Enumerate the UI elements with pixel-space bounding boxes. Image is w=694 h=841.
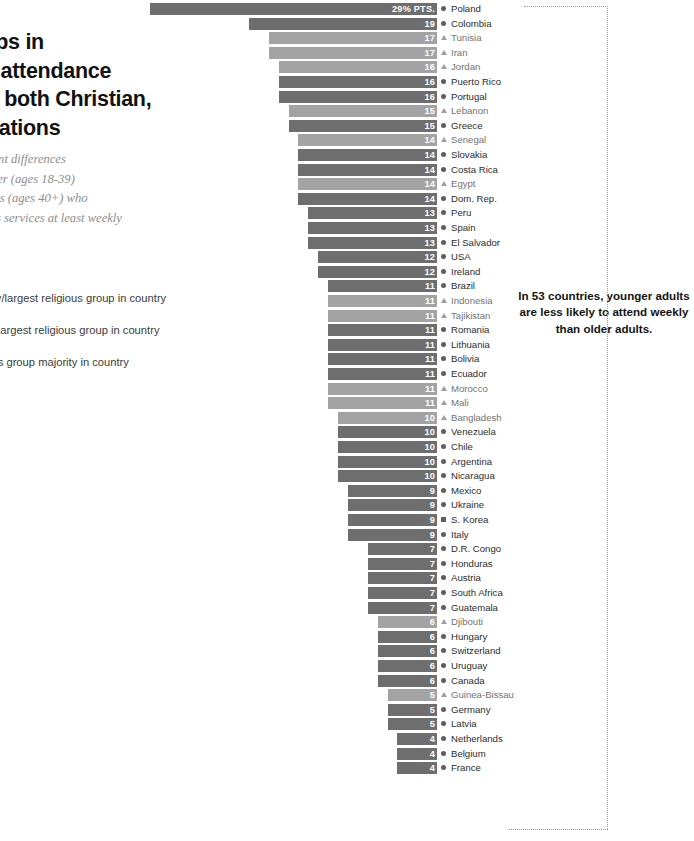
- bar-value-label: 4: [430, 748, 435, 760]
- country-label: D.R. Congo: [451, 543, 501, 555]
- country-label: Brazil: [451, 280, 475, 292]
- country-label: Ecuador: [451, 368, 487, 380]
- country-label: Mali: [451, 397, 469, 409]
- circle-marker-icon: [441, 196, 446, 201]
- circle-marker-icon: [441, 736, 446, 741]
- chart-annotation: In 53 countries, younger adults are less…: [509, 288, 694, 337]
- chart-row: 7D.R. Congo: [0, 543, 694, 555]
- triangle-marker-icon: [441, 64, 447, 69]
- country-label: Slovakia: [451, 149, 487, 161]
- bar: [338, 456, 437, 468]
- country-label: Nicaragua: [451, 470, 495, 482]
- chart-row: 14Egypt: [0, 178, 694, 190]
- bar-value-label: 9: [430, 514, 435, 526]
- country-label: Belgium: [451, 748, 486, 760]
- circle-marker-icon: [441, 751, 446, 756]
- bracket-bottom-line: [509, 829, 608, 830]
- bar: [328, 353, 437, 365]
- country-label: Chile: [451, 441, 473, 453]
- chart-row: 16Jordan: [0, 61, 694, 73]
- country-label: Guatemala: [451, 602, 498, 614]
- bar: [348, 485, 437, 497]
- country-label: S. Korea: [451, 514, 488, 526]
- bar: [249, 18, 437, 30]
- country-label: Greece: [451, 120, 482, 132]
- country-label: Italy: [451, 529, 469, 541]
- bar-value-label: 19: [424, 18, 435, 30]
- circle-marker-icon: [441, 283, 446, 288]
- chart-row: 11Ecuador: [0, 368, 694, 380]
- chart-row: 7Honduras: [0, 558, 694, 570]
- chart-row: 16Puerto Rico: [0, 76, 694, 88]
- triangle-marker-icon: [441, 415, 447, 420]
- circle-marker-icon: [441, 240, 446, 245]
- bar: [338, 426, 437, 438]
- bar-value-label: 7: [430, 543, 435, 555]
- chart-row: 7Austria: [0, 572, 694, 584]
- bar-value-label: 6: [430, 631, 435, 643]
- bar-value-label: 6: [430, 645, 435, 657]
- bar: [298, 193, 437, 205]
- circle-marker-icon: [441, 473, 446, 478]
- circle-marker-icon: [441, 79, 446, 84]
- bar-value-label: 14: [424, 134, 435, 146]
- chart-row: 11Morocco: [0, 383, 694, 395]
- bar-value-label: 4: [430, 762, 435, 774]
- chart-row: 10Nicaragua: [0, 470, 694, 482]
- bracket-right-line: [607, 6, 608, 829]
- chart-row: 10Chile: [0, 441, 694, 453]
- chart-row: 14Senegal: [0, 134, 694, 146]
- chart-row: 13Spain: [0, 222, 694, 234]
- bar-value-label: 6: [430, 660, 435, 672]
- country-label: South Africa: [451, 587, 503, 599]
- chart-row: 14Slovakia: [0, 149, 694, 161]
- chart-row: 12Ireland: [0, 266, 694, 278]
- country-label: Lebanon: [451, 105, 488, 117]
- country-label: Dom. Rep.: [451, 193, 497, 205]
- country-label: Guinea-Bissau: [451, 689, 514, 701]
- bar-value-label: 11: [425, 383, 435, 395]
- circle-marker-icon: [441, 152, 446, 157]
- bar-value-label: 7: [430, 572, 435, 584]
- circle-marker-icon: [441, 721, 446, 726]
- bar: [279, 76, 437, 88]
- bar: [368, 572, 437, 584]
- chart-row: 16Portugal: [0, 91, 694, 103]
- bar-value-label: 9: [430, 529, 435, 541]
- bar-value-label: 14: [424, 164, 435, 176]
- bar: [368, 543, 437, 555]
- chart-row: 11Lithuania: [0, 339, 694, 351]
- triangle-marker-icon: [441, 298, 447, 303]
- chart-row: 6Djibouti: [0, 616, 694, 628]
- bar-value-label: 11: [425, 324, 435, 336]
- triangle-marker-icon: [441, 35, 447, 40]
- bar-value-label: 15: [424, 120, 435, 132]
- bar-value-label: 16: [424, 76, 435, 88]
- bar: [289, 105, 437, 117]
- chart-row: 6Switzerland: [0, 645, 694, 657]
- bar: [378, 631, 437, 643]
- bar-value-label: 7: [430, 558, 435, 570]
- bar: [328, 383, 437, 395]
- chart-row: 13El Salvador: [0, 237, 694, 249]
- bar-value-label: 11: [425, 397, 435, 409]
- bar-value-label: 6: [430, 675, 435, 687]
- country-label: Ukraine: [451, 499, 484, 511]
- bar: [328, 324, 437, 336]
- chart-row: 5Germany: [0, 704, 694, 716]
- bar: [308, 222, 437, 234]
- bar: [368, 558, 437, 570]
- circle-marker-icon: [441, 488, 446, 493]
- country-label: Jordan: [451, 61, 480, 73]
- country-label: Canada: [451, 675, 485, 687]
- bar: [328, 368, 437, 380]
- bar: [279, 61, 437, 73]
- bar: [378, 675, 437, 687]
- bar-value-label: 11: [425, 353, 435, 365]
- country-label: Germany: [451, 704, 490, 716]
- chart-row: 6Uruguay: [0, 660, 694, 672]
- chart-row: 14Dom. Rep.: [0, 193, 694, 205]
- chart-row: 9S. Korea: [0, 514, 694, 526]
- bar: [308, 237, 437, 249]
- bar-value-label: 16: [424, 61, 435, 73]
